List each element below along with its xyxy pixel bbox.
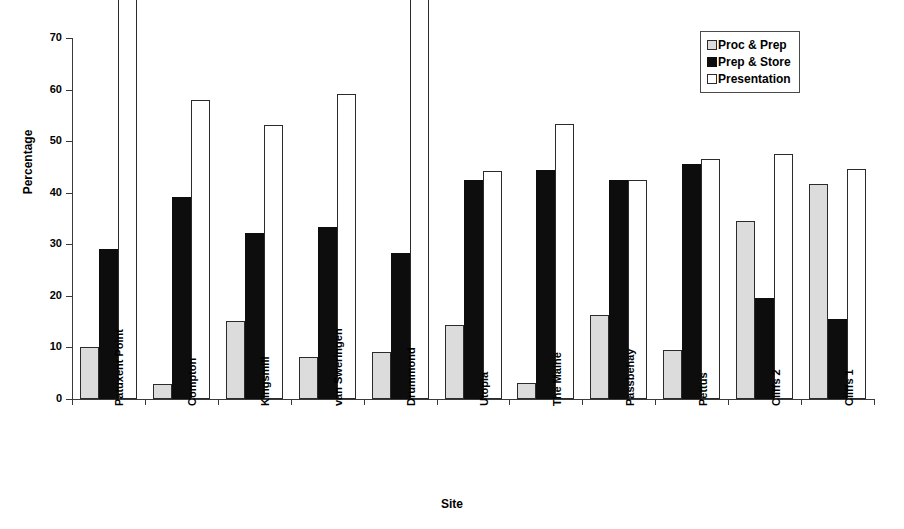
x-axis-tick bbox=[291, 399, 292, 405]
y-axis-tick-label: 40 bbox=[50, 186, 62, 198]
y-axis-tick-label: 0 bbox=[56, 392, 62, 404]
x-axis-tick bbox=[874, 399, 875, 405]
y-axis-tick-label: 30 bbox=[50, 237, 62, 249]
x-axis-category-label: Pettus bbox=[697, 372, 709, 406]
legend-item-label: Proc & Prep bbox=[718, 39, 787, 51]
x-axis-category-label: The Maine bbox=[551, 352, 563, 406]
bar bbox=[736, 221, 755, 399]
y-axis-tick: 10 bbox=[66, 347, 72, 348]
bar-group bbox=[226, 38, 283, 399]
bar-group bbox=[372, 38, 429, 399]
x-axis-tick bbox=[145, 399, 146, 405]
x-axis-category-label: Utopia bbox=[478, 372, 490, 406]
bar bbox=[299, 357, 318, 399]
bar bbox=[483, 171, 502, 399]
bar bbox=[410, 0, 429, 399]
y-axis-tick: 20 bbox=[66, 296, 72, 297]
y-axis-tick: 40 bbox=[66, 193, 72, 194]
x-axis-title: Site bbox=[0, 497, 904, 511]
x-axis-tick bbox=[72, 399, 73, 405]
bar bbox=[809, 184, 828, 399]
y-axis-tick-label: 10 bbox=[50, 340, 62, 352]
y-axis-tick-label: 20 bbox=[50, 289, 62, 301]
legend-item: Proc & Prep bbox=[707, 36, 791, 53]
x-axis-category-label: Cliffs 1 bbox=[843, 369, 855, 406]
x-axis-tick bbox=[582, 399, 583, 405]
legend-item-label: Prep & Store bbox=[718, 56, 791, 68]
y-axis-tick-label: 70 bbox=[50, 31, 62, 43]
bar bbox=[517, 383, 536, 400]
x-axis-category-label: van Sweringen bbox=[332, 328, 344, 406]
bar-group bbox=[153, 38, 210, 399]
bar-group bbox=[299, 38, 356, 399]
bar-group bbox=[445, 38, 502, 399]
bar-group bbox=[590, 38, 647, 399]
legend-item: Prep & Store bbox=[707, 53, 791, 70]
bar-group bbox=[80, 38, 137, 399]
x-axis-category-label: Cliffs 2 bbox=[770, 369, 782, 406]
bar bbox=[464, 180, 483, 399]
bar bbox=[701, 159, 720, 399]
y-axis-tick: 30 bbox=[66, 244, 72, 245]
legend-swatch-icon bbox=[707, 57, 717, 67]
bar bbox=[445, 325, 464, 399]
x-axis-category-label: Kingsmill bbox=[259, 356, 271, 406]
bar bbox=[774, 154, 793, 399]
x-axis-tick bbox=[437, 399, 438, 405]
bar bbox=[663, 350, 682, 399]
x-axis-tick bbox=[509, 399, 510, 405]
bar bbox=[590, 315, 609, 399]
x-axis-tick bbox=[218, 399, 219, 405]
bar bbox=[847, 169, 866, 399]
x-axis-tick bbox=[655, 399, 656, 405]
bar bbox=[226, 321, 245, 399]
bar bbox=[191, 100, 210, 399]
y-axis-tick: 50 bbox=[66, 141, 72, 142]
bar bbox=[682, 164, 701, 399]
bar-group bbox=[517, 38, 574, 399]
y-axis-tick: 60 bbox=[66, 90, 72, 91]
x-axis-category-label: Patuxent Point bbox=[113, 329, 125, 406]
x-axis-category-label: Passbehay bbox=[624, 349, 636, 406]
legend-item-label: Presentation bbox=[718, 73, 791, 85]
y-axis-title: Percentage bbox=[21, 102, 35, 222]
bar bbox=[153, 384, 172, 399]
x-axis-tick bbox=[728, 399, 729, 405]
y-axis-tick-label: 50 bbox=[50, 134, 62, 146]
bar-group bbox=[809, 38, 866, 399]
y-axis-tick-label: 60 bbox=[50, 83, 62, 95]
legend-item: Presentation bbox=[707, 70, 791, 87]
bar bbox=[372, 352, 391, 399]
bar-chart: Percentage 010203040506070 Patuxent Poin… bbox=[0, 0, 904, 529]
bar bbox=[80, 347, 99, 399]
x-axis-category-label: Compton bbox=[186, 358, 198, 406]
legend-swatch-icon bbox=[707, 74, 717, 84]
y-axis-tick: 70 bbox=[66, 38, 72, 39]
x-axis-tick bbox=[801, 399, 802, 405]
legend-swatch-icon bbox=[707, 40, 717, 50]
x-axis-tick bbox=[364, 399, 365, 405]
y-axis-line bbox=[72, 38, 73, 400]
chart-legend: Proc & PrepPrep & StorePresentation bbox=[700, 31, 800, 93]
x-axis-category-label: Drummond bbox=[405, 347, 417, 406]
